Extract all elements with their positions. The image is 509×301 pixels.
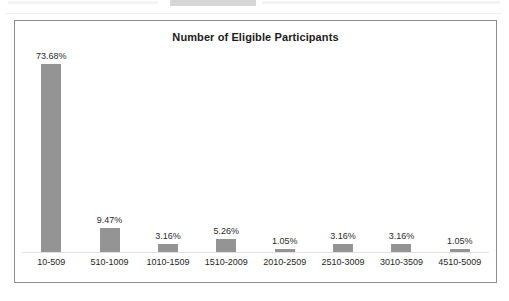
bar[interactable] bbox=[275, 249, 295, 252]
bar-value-label: 73.68% bbox=[36, 51, 67, 61]
x-axis-tick-label: 4510-5009 bbox=[431, 257, 489, 267]
bar-group: 9.47% bbox=[80, 48, 138, 252]
scan-smudge-right bbox=[262, 1, 500, 4]
bar-value-label: 3.16% bbox=[155, 231, 181, 241]
x-axis-tick-label: 3010-3509 bbox=[372, 257, 430, 267]
bar-group: 73.68% bbox=[22, 48, 80, 252]
x-axis-tick-label: 2010-2509 bbox=[256, 257, 314, 267]
x-axis-tick-label: 1010-1509 bbox=[139, 257, 197, 267]
bar-value-label: 1.05% bbox=[272, 236, 298, 246]
bar-group: 1.05% bbox=[431, 48, 489, 252]
x-axis-tick-label: 1510-2009 bbox=[197, 257, 255, 267]
bar[interactable] bbox=[450, 249, 470, 252]
bar-value-label: 3.16% bbox=[389, 231, 415, 241]
bar-group: 1.05% bbox=[256, 48, 314, 252]
chart-title: Number of Eligible Participants bbox=[15, 31, 496, 43]
bar-group: 5.26% bbox=[197, 48, 255, 252]
bar-value-label: 1.05% bbox=[447, 236, 473, 246]
scan-smudge-center bbox=[170, 0, 256, 6]
x-axis-tick-label: 510-1009 bbox=[80, 257, 138, 267]
bar-value-label: 3.16% bbox=[330, 231, 356, 241]
bar[interactable] bbox=[41, 64, 61, 252]
x-axis-tick-label: 2510-3009 bbox=[314, 257, 372, 267]
bar-chart-figure: Number of Eligible Participants 73.68%9.… bbox=[14, 20, 497, 283]
scan-horizontal-rule bbox=[6, 13, 502, 14]
bar-group: 3.16% bbox=[372, 48, 430, 252]
bar[interactable] bbox=[158, 244, 178, 252]
scan-artifact-band bbox=[0, 0, 509, 20]
bar-value-label: 5.26% bbox=[214, 226, 240, 236]
axis-baseline bbox=[22, 252, 489, 253]
bar-group: 3.16% bbox=[139, 48, 197, 252]
bar[interactable] bbox=[100, 228, 120, 252]
bar-group: 3.16% bbox=[314, 48, 372, 252]
bar-value-label: 9.47% bbox=[97, 215, 123, 225]
scan-smudge-left bbox=[8, 1, 158, 4]
x-axis-category-labels: 10-509510-10091010-15091510-20092010-250… bbox=[22, 257, 489, 273]
bar[interactable] bbox=[391, 244, 411, 252]
bar[interactable] bbox=[333, 244, 353, 252]
plot-area: 73.68%9.47%3.16%5.26%1.05%3.16%3.16%1.05… bbox=[22, 49, 489, 253]
x-axis-tick-label: 10-509 bbox=[22, 257, 80, 267]
bar[interactable] bbox=[216, 239, 236, 252]
